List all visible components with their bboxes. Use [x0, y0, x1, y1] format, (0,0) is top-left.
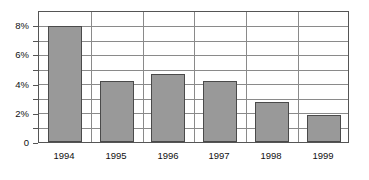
x-axis-label-1995: 1995 — [90, 150, 142, 161]
y-axis-label-8: 8% — [15, 21, 29, 31]
category-divider-5 — [298, 12, 299, 142]
bar-1996 — [151, 74, 185, 142]
y-axis-label-2: 2% — [15, 109, 29, 119]
x-axis-label-1994: 1994 — [38, 150, 90, 161]
bar-1994 — [48, 26, 82, 142]
bar-1999 — [307, 115, 341, 142]
y-axis-label-4: 4% — [15, 80, 29, 90]
y-axis-label-0: 0 — [24, 138, 29, 148]
category-divider-3 — [194, 12, 195, 142]
x-axis-label-1999: 1999 — [297, 150, 349, 161]
category-divider-4 — [246, 12, 247, 142]
bar-1997 — [203, 81, 237, 142]
x-axis-label-1996: 1996 — [142, 150, 194, 161]
x-axis-label-1997: 1997 — [193, 150, 245, 161]
y-axis-label-6: 6% — [15, 50, 29, 60]
bar-1995 — [100, 81, 134, 142]
category-divider-2 — [143, 12, 144, 142]
bar-1998 — [255, 102, 289, 142]
y-tick-0 — [33, 143, 38, 144]
plot-area — [38, 11, 349, 143]
bar-chart: 8% 6% 4% 2% 0 1994 1995 1996 1997 1998 1… — [0, 0, 369, 180]
category-divider-1 — [91, 12, 92, 142]
x-axis-label-1998: 1998 — [245, 150, 297, 161]
